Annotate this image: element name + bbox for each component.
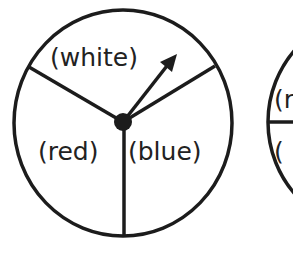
label-red: (red) <box>38 137 99 166</box>
label-blue: (blue) <box>128 137 202 166</box>
spinner-diagram: (white) (red) (blue) (r ( <box>0 0 293 253</box>
divider-right <box>123 66 215 122</box>
partial-label-bottom: ( <box>274 137 284 166</box>
label-white: (white) <box>50 43 138 72</box>
partial-label-top: (r <box>274 85 293 114</box>
partial-spinner <box>268 12 293 232</box>
spinner-hub <box>114 113 132 131</box>
divider-left <box>29 67 123 122</box>
